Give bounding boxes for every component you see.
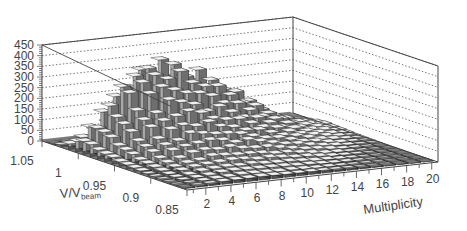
z-tick-label: 450 (14, 38, 34, 52)
lego-histogram-3d: 050100150200250300350400450 1.0510.950.9… (0, 0, 467, 231)
multiplicity-tick-label: 6 (254, 191, 261, 205)
multiplicity-tick-label: 12 (326, 183, 340, 197)
multiplicity-tick-label: 18 (401, 175, 415, 189)
multiplicity-tick-label: 4 (229, 194, 236, 208)
multiplicity-tick-label: 2 (203, 197, 210, 211)
multiplicity-tick-label: 20 (426, 172, 440, 186)
multiplicity-tick-label: 10 (301, 186, 315, 200)
y-axis-title-sub: beam (81, 191, 102, 201)
multiplicity-tick-label: 8 (279, 189, 286, 203)
v-tick-label: 1.05 (10, 154, 34, 168)
z-axis: 050100150200250300350400450 (14, 38, 42, 148)
multiplicity-tick-label: 14 (351, 180, 365, 194)
x-axis-title: Multiplicity (362, 194, 424, 217)
multiplicity-tick-label: 16 (376, 177, 390, 191)
v-tick-label: 0.9 (122, 191, 139, 205)
v-tick-label: 0.95 (83, 179, 107, 193)
v-tick-label: 0.85 (155, 203, 179, 217)
y-axis-title-main: V/V (59, 185, 81, 201)
v-tick-label: 1 (55, 166, 62, 180)
